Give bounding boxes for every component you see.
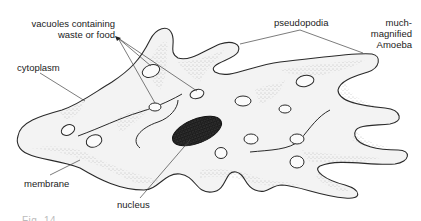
vacuole [279,105,291,113]
title-line1: much- [360,17,412,28]
vacuole [244,134,258,144]
amoeba-title: much- magnified Amoeba [360,17,412,50]
vacuole [149,103,161,111]
membrane-label: membrane [24,178,69,189]
vacuole [215,148,227,159]
nucleus-label: nucleus [117,199,150,210]
figure-caption-partial: Fig. 14 ... [22,214,69,221]
cytoplasm-label: cytoplasm [17,62,60,73]
vacuoles-label-line2: waste or food [30,29,115,40]
vacuole [290,156,304,168]
vacuoles-label: vacuoles containing waste or food [30,18,115,40]
vacuole [290,134,304,144]
title-line3: Amoeba [360,39,412,50]
vacuoles-label-line1: vacuoles containing [30,18,115,29]
arrowhead-icon [115,36,121,41]
vacuole [235,96,251,106]
pseudopodia-label: pseudopodia [274,17,328,28]
title-line2: magnified [360,28,412,39]
